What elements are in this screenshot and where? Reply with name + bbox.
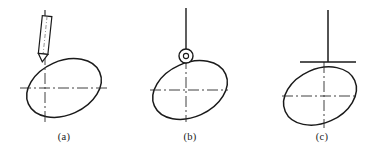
- figure-caption-b: (b): [183, 131, 196, 143]
- knife-edge-tip-a: [38, 53, 48, 62]
- figure-caption-a: (a): [58, 131, 71, 143]
- figure-c-group: (c): [274, 10, 365, 143]
- diagram-canvas: (a) (b) (c): [0, 0, 379, 151]
- figure-caption-c: (c): [316, 131, 329, 143]
- follower-body-a: [38, 16, 52, 63]
- figure-a-group: (a): [17, 10, 110, 143]
- cam-follower-diagram: (a) (b) (c): [0, 0, 379, 151]
- figure-b-group: (b): [143, 8, 236, 143]
- roller-hub-b: [183, 53, 188, 58]
